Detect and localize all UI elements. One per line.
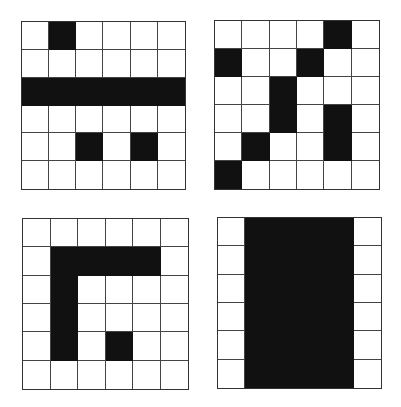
empty-cell [49, 106, 76, 134]
filled-cell [215, 161, 242, 189]
filled-cell [245, 246, 272, 274]
empty-cell [158, 133, 185, 161]
empty-cell [103, 22, 130, 50]
empty-cell [324, 77, 351, 105]
empty-cell [161, 304, 189, 332]
empty-cell [23, 332, 51, 360]
filled-cell [270, 105, 297, 133]
empty-cell [22, 50, 49, 78]
empty-cell [218, 360, 245, 388]
empty-cell [161, 276, 189, 304]
filled-cell [272, 218, 299, 246]
empty-cell [78, 332, 106, 360]
empty-cell [218, 331, 245, 359]
filled-cell [245, 360, 272, 388]
empty-cell [23, 304, 51, 332]
empty-cell [22, 106, 49, 134]
filled-cell [76, 133, 103, 161]
filled-cell [327, 331, 354, 359]
empty-cell [218, 246, 245, 274]
filled-cell [272, 246, 299, 274]
empty-cell [78, 276, 106, 304]
filled-cell [327, 218, 354, 246]
empty-cell [242, 49, 269, 77]
filled-cell [131, 78, 158, 106]
empty-cell [133, 276, 161, 304]
empty-cell [242, 105, 269, 133]
filled-cell [215, 49, 242, 77]
filled-cell [299, 360, 326, 388]
empty-cell [218, 275, 245, 303]
empty-cell [51, 219, 79, 247]
empty-cell [49, 50, 76, 78]
empty-cell [218, 218, 245, 246]
empty-cell [78, 361, 106, 389]
empty-cell [242, 21, 269, 49]
empty-cell [161, 247, 189, 275]
filled-cell [327, 360, 354, 388]
filled-cell [299, 331, 326, 359]
empty-cell [297, 133, 324, 161]
empty-cell [324, 161, 351, 189]
empty-cell [22, 22, 49, 50]
empty-cell [49, 133, 76, 161]
empty-cell [131, 106, 158, 134]
empty-cell [354, 246, 381, 274]
filled-cell [327, 303, 354, 331]
pixel-grid-bottom-right [217, 217, 382, 389]
empty-cell [270, 21, 297, 49]
filled-cell [299, 303, 326, 331]
empty-cell [324, 49, 351, 77]
empty-cell [103, 50, 130, 78]
empty-cell [297, 161, 324, 189]
empty-cell [133, 219, 161, 247]
filled-cell [299, 275, 326, 303]
filled-cell [324, 21, 351, 49]
filled-cell [242, 133, 269, 161]
empty-cell [352, 105, 379, 133]
empty-cell [158, 161, 185, 189]
empty-cell [131, 50, 158, 78]
empty-cell [76, 161, 103, 189]
filled-cell [158, 78, 185, 106]
filled-cell [76, 78, 103, 106]
filled-cell [133, 247, 161, 275]
empty-cell [51, 361, 79, 389]
empty-cell [297, 21, 324, 49]
filled-cell [106, 332, 134, 360]
empty-cell [78, 304, 106, 332]
empty-cell [103, 133, 130, 161]
empty-cell [218, 303, 245, 331]
filled-cell [272, 331, 299, 359]
empty-cell [103, 106, 130, 134]
filled-cell [51, 332, 79, 360]
empty-cell [352, 21, 379, 49]
pixel-grid-top-left [21, 21, 186, 190]
empty-cell [242, 77, 269, 105]
empty-cell [106, 276, 134, 304]
filled-cell [272, 275, 299, 303]
filled-cell [131, 133, 158, 161]
empty-cell [270, 49, 297, 77]
empty-cell [215, 77, 242, 105]
empty-cell [354, 275, 381, 303]
filled-cell [270, 77, 297, 105]
empty-cell [158, 50, 185, 78]
empty-cell [76, 50, 103, 78]
empty-cell [106, 219, 134, 247]
filled-cell [51, 304, 79, 332]
empty-cell [78, 219, 106, 247]
filled-cell [49, 78, 76, 106]
empty-cell [354, 218, 381, 246]
filled-cell [324, 105, 351, 133]
filled-cell [51, 276, 79, 304]
empty-cell [23, 219, 51, 247]
empty-cell [23, 276, 51, 304]
filled-cell [245, 218, 272, 246]
empty-cell [161, 332, 189, 360]
filled-cell [324, 133, 351, 161]
empty-cell [158, 22, 185, 50]
empty-cell [352, 133, 379, 161]
empty-cell [103, 161, 130, 189]
filled-cell [297, 49, 324, 77]
